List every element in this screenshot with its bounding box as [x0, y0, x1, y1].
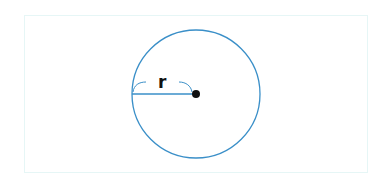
radius-brace-right — [179, 82, 192, 92]
radius-label: r — [158, 72, 166, 92]
center-point — [192, 90, 200, 98]
circle-diagram — [0, 0, 390, 184]
radius-brace-left — [133, 82, 146, 92]
